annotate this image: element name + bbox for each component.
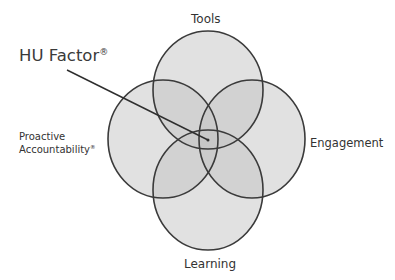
hu-factor-label: HU Factor®	[19, 46, 108, 65]
learning-label: Learning	[184, 257, 236, 271]
venn-diagram: HU Factor® Tools Engagement Learning Pro…	[0, 0, 395, 280]
engagement-label: Engagement	[310, 136, 383, 150]
tools-label: Tools	[191, 12, 221, 26]
proactive-accountability-label: Proactive Accountability®	[19, 130, 96, 156]
pointer-dot	[207, 139, 210, 142]
